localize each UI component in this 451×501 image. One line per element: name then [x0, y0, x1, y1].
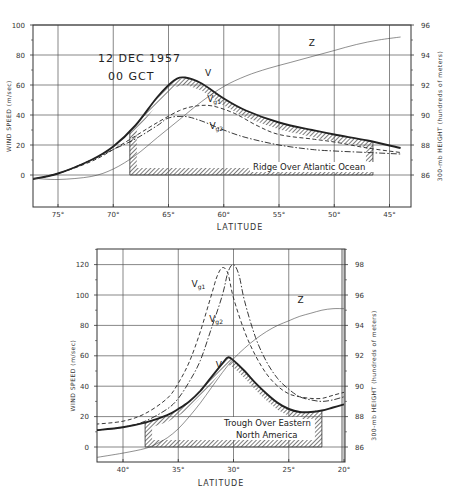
y-axis-left: 020406080100120WIND SPEED (m/sec): [69, 249, 97, 451]
x-tick-label: 25°: [283, 466, 295, 474]
y-axis-right: 868890929496300-mb HEIGHT (hundreds of m…: [411, 22, 443, 182]
grid: [97, 249, 345, 462]
y2-tick-label: 96: [421, 22, 430, 30]
y-tick-label: 20: [80, 413, 89, 421]
y-tick-label: 40: [80, 383, 89, 391]
x-tick-label: 50°: [328, 211, 340, 219]
x-tick-label: 70°: [107, 211, 119, 219]
y2-tick-label: 92: [355, 352, 364, 360]
series-label-vg2: Vg2: [209, 121, 223, 133]
series-label-vg2: Vg2: [209, 314, 223, 326]
series-label-z: Z: [309, 38, 315, 48]
y2-tick-label: 94: [421, 52, 430, 60]
x-tick-label: 65°: [162, 211, 174, 219]
y-tick-label: 20: [16, 142, 25, 150]
y-tick-label: 0: [21, 172, 25, 180]
time-annotation: 00 GCT: [108, 70, 154, 83]
x-tick-label: 55°: [273, 211, 285, 219]
plot-frame: [33, 25, 411, 207]
y-tick-label: 60: [80, 352, 89, 360]
x-tick-label: 40°: [117, 466, 129, 474]
y-tick-label: 40: [16, 112, 25, 120]
y2-tick-label: 88: [421, 142, 430, 150]
y-tick-label: 0: [85, 444, 89, 452]
y2-tick-label: 86: [421, 172, 430, 180]
x-tick-label: 35°: [172, 466, 184, 474]
x-axis: 75°70°65°60°55°50°45°LATITUDE: [52, 204, 396, 232]
y2-tick-label: 90: [421, 112, 430, 120]
x-axis: 40°35°30°25°20°LATITUDE: [117, 459, 350, 488]
hatched-region: [130, 78, 373, 175]
region-label: Ridge Over Atlantic Ocean: [253, 162, 365, 172]
figure: 020406080100WIND SPEED (m/sec)8688909294…: [0, 0, 451, 501]
y-tick-label: 80: [16, 52, 25, 60]
y2-axis-title: 300-mb HEIGHT (hundreds of meters): [436, 51, 443, 182]
series-lines: [30, 37, 400, 180]
series-label-v: V: [205, 68, 212, 78]
y2-tick-label: 88: [355, 413, 364, 421]
bottom-chart-trough: 020406080100120WIND SPEED (m/sec)8688909…: [69, 249, 377, 488]
y-tick-label: 80: [80, 322, 89, 330]
region-label-line2: North America: [236, 430, 298, 440]
y2-tick-label: 90: [355, 383, 364, 391]
series-vg1: [95, 268, 344, 425]
top-chart-ridge: 020406080100WIND SPEED (m/sec)8688909294…: [5, 22, 443, 233]
x-tick-label: 30°: [227, 466, 239, 474]
region-label-line1: Trough Over Eastern: [223, 418, 311, 428]
grid: [33, 25, 411, 207]
series-z: [30, 37, 400, 180]
y2-axis-title: 300-mb HEIGHT (hundreds of meters): [370, 310, 377, 441]
x-axis-title: LATITUDE: [198, 479, 245, 488]
series-label-vg1: Vg1: [192, 279, 206, 291]
series-labels: Vg1Vg2VZ: [192, 279, 304, 370]
y2-tick-label: 94: [355, 322, 364, 330]
y-axis-title: WIND SPEED (m/sec): [5, 80, 12, 152]
x-tick-label: 45°: [383, 211, 395, 219]
x-tick-label: 60°: [218, 211, 230, 219]
y-axis-right: 86889092949698300-mb HEIGHT (hundreds of…: [342, 249, 377, 462]
series-label-z: Z: [298, 295, 304, 305]
series-z: [95, 309, 344, 458]
y2-tick-label: 92: [421, 82, 430, 90]
y2-tick-label: 86: [355, 444, 364, 452]
date-annotation: 12 DEC 1957: [98, 52, 181, 65]
y-axis-left: 020406080100WIND SPEED (m/sec): [5, 22, 33, 180]
y-tick-label: 100: [76, 292, 89, 300]
series-vg2: [95, 265, 344, 431]
series-label-v: V: [216, 360, 223, 370]
y2-tick-label: 96: [355, 292, 364, 300]
x-tick-label: 75°: [52, 211, 64, 219]
y-tick-label: 120: [76, 261, 89, 269]
y-tick-label: 60: [16, 82, 25, 90]
x-tick-label: 20°: [338, 466, 350, 474]
y2-tick-label: 98: [355, 261, 364, 269]
x-axis-title: LATITUDE: [217, 223, 264, 232]
y-axis-title: WIND SPEED (m/sec): [69, 340, 76, 412]
y-tick-label: 100: [12, 22, 25, 30]
